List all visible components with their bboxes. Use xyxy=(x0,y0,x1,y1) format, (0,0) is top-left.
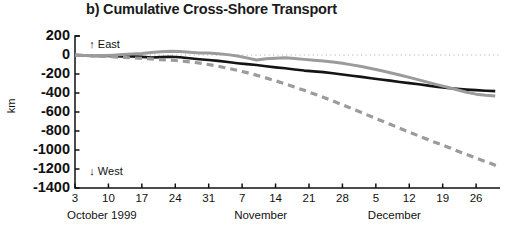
x-axis-tick-label: 10 xyxy=(102,192,115,204)
x-axis-tick-label: 5 xyxy=(373,192,379,204)
x-axis-month-label: December xyxy=(368,209,421,221)
x-axis-month-label: November xyxy=(234,209,287,221)
series-black-solid xyxy=(75,55,495,91)
y-axis-tick-label: -1000 xyxy=(8,142,70,157)
x-axis-tick-label: 31 xyxy=(202,192,215,204)
chart-figure: b) Cumulative Cross-Shore Transport km 2… xyxy=(0,0,525,236)
x-axis-tick-label: 28 xyxy=(336,192,349,204)
y-axis-tick-label: -1400 xyxy=(8,180,70,195)
y-axis-tick-label: -1200 xyxy=(8,161,70,176)
y-axis-tick-label: 200 xyxy=(8,28,70,43)
x-axis-month-label: October 1999 xyxy=(67,209,137,221)
x-axis-tick-label: 26 xyxy=(470,192,483,204)
y-axis-tick-label: 0 xyxy=(8,47,70,62)
x-axis-tick-label: 7 xyxy=(239,192,245,204)
y-axis-tick-labels: 2000-200-400-600-800-1000-1200-1400 xyxy=(4,0,70,236)
x-axis-tick-label: 17 xyxy=(135,192,148,204)
x-axis-tick-label: 21 xyxy=(303,192,316,204)
y-axis-tick-label: -400 xyxy=(8,85,70,100)
x-axis-tick-label: 12 xyxy=(403,192,416,204)
x-axis-tick-label: 14 xyxy=(269,192,282,204)
y-axis-tick-label: -200 xyxy=(8,66,70,81)
direction-annotation: ↑ East xyxy=(89,38,120,50)
y-axis-tick-label: -800 xyxy=(8,123,70,138)
x-axis-tick-label: 3 xyxy=(72,192,78,204)
y-axis-tick-label: -600 xyxy=(8,104,70,119)
x-axis-tick-label: 19 xyxy=(436,192,449,204)
x-axis-tick-label: 24 xyxy=(169,192,182,204)
series-gray-dashed xyxy=(75,55,500,167)
direction-annotation: ↓ West xyxy=(89,165,122,177)
chart-title: b) Cumulative Cross-Shore Transport xyxy=(86,1,337,17)
